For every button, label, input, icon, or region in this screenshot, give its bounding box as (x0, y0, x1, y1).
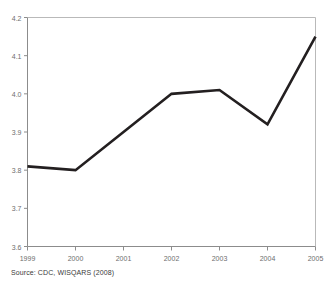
data-series-line (28, 37, 316, 171)
x-tick-label: 2005 (308, 255, 324, 262)
x-tick-label: 2004 (260, 255, 276, 262)
source-note: Source: CDC, WISQARS (2008) (11, 269, 114, 276)
y-tick-label: 4.1 (12, 53, 22, 60)
y-tick-label: 4.2 (12, 15, 22, 22)
y-tick-label: 3.6 (12, 244, 22, 251)
chart-figure: 4.24.14.03.93.83.73.61999200020012002200… (0, 0, 326, 287)
y-tick-label: 4.0 (12, 91, 22, 98)
chart-plot-area: 4.24.14.03.93.83.73.61999200020012002200… (0, 0, 326, 287)
x-tick-label: 2000 (68, 255, 84, 262)
y-tick-label: 3.9 (12, 129, 22, 136)
y-tick-label: 3.8 (12, 167, 22, 174)
x-tick-label: 2002 (164, 255, 180, 262)
line-chart-svg: 4.24.14.03.93.83.73.61999200020012002200… (0, 0, 326, 287)
x-tick-label: 2003 (212, 255, 228, 262)
x-tick-label: 1999 (20, 255, 36, 262)
y-tick-label: 3.7 (12, 205, 22, 212)
x-tick-label: 2001 (116, 255, 132, 262)
